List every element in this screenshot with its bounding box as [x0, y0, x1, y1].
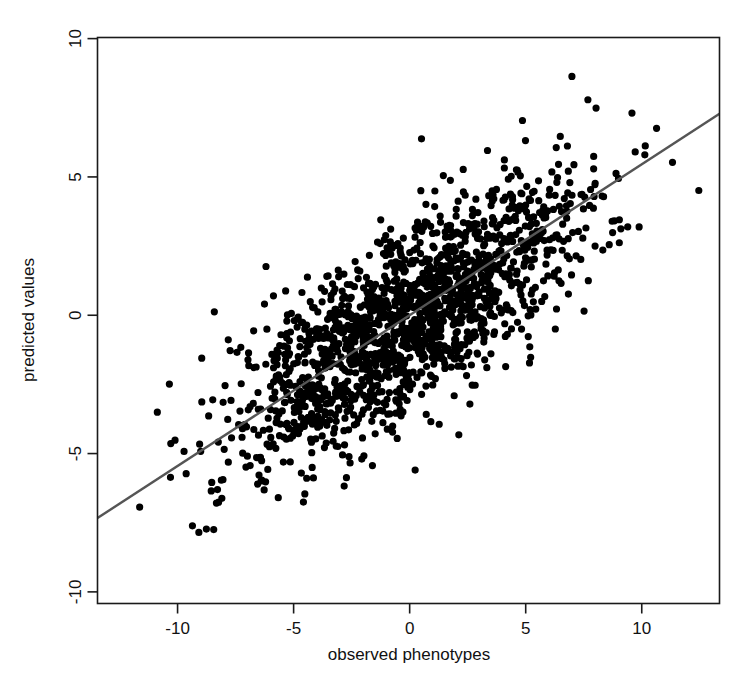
x-axis-title: observed phenotypes: [328, 645, 491, 664]
x-axis-tick-label: 0: [405, 619, 414, 638]
y-axis-title: predicted values: [19, 258, 38, 382]
y-axis-tick-label: 10: [66, 29, 85, 48]
plot-canvas: -10-50510-10-50510 observed phenotypes p…: [0, 0, 755, 697]
x-axis-tick-label: 10: [632, 619, 651, 638]
y-axis-tick-label: -5: [66, 446, 85, 461]
y-axis-tick-label: -10: [66, 580, 85, 605]
y-axis-tick-label: 5: [66, 172, 85, 181]
y-axis-tick-label: 0: [66, 311, 85, 320]
x-axis-tick-label: -5: [286, 619, 301, 638]
x-axis-tick-label: 5: [521, 619, 530, 638]
figure-background: [0, 0, 755, 697]
scatter-plot-figure: -10-50510-10-50510 observed phenotypes p…: [0, 0, 755, 697]
x-axis-tick-label: -10: [165, 619, 190, 638]
